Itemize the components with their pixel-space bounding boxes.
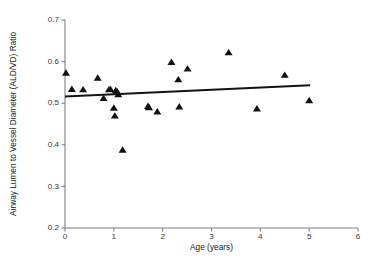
axes: [65, 20, 358, 228]
x-tick-label: 6: [356, 232, 361, 241]
x-tick-label: 4: [258, 232, 263, 241]
data-point-marker: [94, 74, 102, 80]
x-tick-label: 2: [160, 232, 165, 241]
data-point-marker: [167, 59, 175, 65]
y-tick-label: 0.7: [48, 15, 60, 24]
trend-line: [65, 85, 310, 96]
x-tick-labels: 0123456: [63, 232, 361, 241]
data-point-marker: [225, 49, 233, 55]
x-tick-label: 1: [112, 232, 117, 241]
x-axis-title: Age (years): [190, 242, 233, 252]
data-point-marker: [174, 76, 182, 82]
plot-area: 0.20.30.40.50.60.7 0123456 Age (years) A…: [0, 0, 377, 259]
x-tick-label: 3: [209, 232, 214, 241]
data-point-marker: [110, 104, 118, 110]
x-tick-label: 0: [63, 232, 68, 241]
data-point-marker: [175, 103, 183, 109]
data-point-marker: [184, 65, 192, 71]
y-tick-label: 0.6: [48, 57, 60, 66]
tick-marks: [62, 20, 359, 232]
y-tick-label: 0.3: [48, 182, 60, 191]
y-tick-label: 0.5: [48, 98, 60, 107]
scatter-chart: 0.20.30.40.50.60.7 0123456 Age (years) A…: [0, 0, 377, 259]
regression-line: [65, 85, 310, 96]
data-point-marker: [68, 86, 76, 92]
x-tick-label: 5: [307, 232, 312, 241]
y-tick-label: 0.2: [48, 223, 60, 232]
data-point-marker: [79, 86, 87, 92]
data-point-marker: [153, 108, 161, 114]
data-point-marker: [119, 146, 127, 152]
y-axis-title: Airway Lumen to Vessel Diameter (ALD/VD)…: [8, 32, 18, 216]
data-point-marker: [253, 105, 261, 111]
data-point-marker: [111, 112, 119, 118]
y-tick-label: 0.4: [48, 140, 60, 149]
y-tick-labels: 0.20.30.40.50.60.7: [48, 15, 60, 232]
data-point-marker: [281, 71, 289, 77]
data-point-marker: [305, 97, 313, 103]
data-points: [62, 49, 313, 153]
data-point-marker: [62, 69, 70, 75]
